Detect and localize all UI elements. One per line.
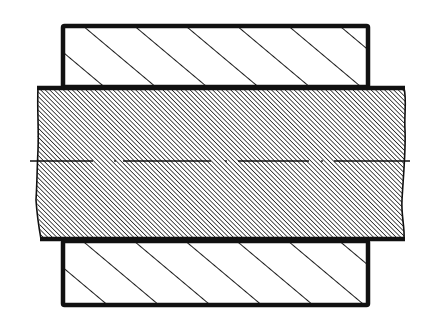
hub-bottom-section: [63, 241, 368, 305]
hub-top-section: [63, 26, 368, 87]
shaft-section: [36, 88, 405, 239]
section-drawing: [0, 0, 431, 320]
